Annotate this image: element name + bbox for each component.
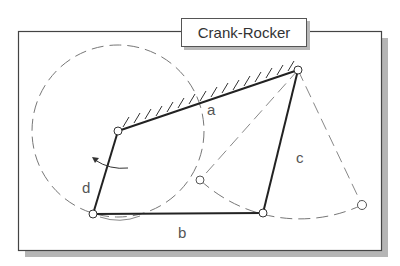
diagram-canvas: a c d b Crank-Rocker xyxy=(0,0,400,266)
diagram-title: Crank-Rocker xyxy=(181,18,307,47)
joint-rocker-bottom xyxy=(259,209,267,217)
label-a: a xyxy=(207,101,216,118)
label-d: d xyxy=(82,179,90,196)
joint-crank-bottom xyxy=(89,210,97,218)
joint-ground-right xyxy=(294,66,302,74)
label-b: b xyxy=(178,224,186,241)
label-c: c xyxy=(296,149,304,166)
joint-rocker-extreme-right xyxy=(358,201,367,210)
joint-rocker-extreme-left xyxy=(196,176,204,184)
link-b xyxy=(93,213,263,214)
joint-ground-left xyxy=(114,127,122,135)
frame xyxy=(19,32,382,251)
